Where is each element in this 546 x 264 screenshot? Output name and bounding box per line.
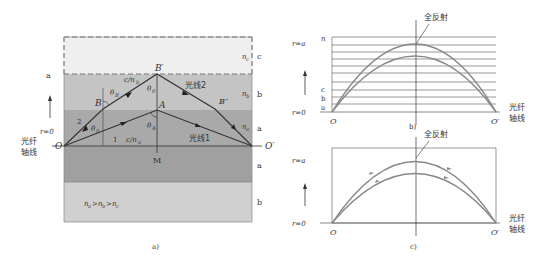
point-o-prime-c: O′ bbox=[491, 228, 500, 237]
svg-text:c/n: c/n bbox=[126, 136, 137, 144]
arrow-icon bbox=[447, 167, 452, 170]
axis-label-c-line2: 轴线 bbox=[509, 224, 525, 234]
panel-c-border bbox=[332, 148, 496, 223]
svg-text:b: b bbox=[246, 93, 249, 99]
r-zero-label-b: r=0 bbox=[292, 109, 306, 117]
layer-label-a: a bbox=[257, 124, 262, 133]
svg-text:a: a bbox=[88, 203, 91, 209]
leader-line-b bbox=[416, 24, 429, 44]
svg-text:c: c bbox=[116, 203, 119, 209]
r-a-label-c: r=a bbox=[292, 157, 305, 165]
svg-text:a: a bbox=[138, 139, 141, 145]
svg-text:c: c bbox=[246, 56, 249, 62]
svg-text:A: A bbox=[151, 125, 156, 131]
axis-label-b-line1: 光纤 bbox=[509, 102, 525, 112]
svg-text:a: a bbox=[246, 126, 249, 132]
axis-label-b-line2: 轴线 bbox=[509, 113, 525, 123]
point-o: O bbox=[55, 141, 63, 151]
point-o-c: O bbox=[330, 228, 337, 237]
point-o-prime: O′ bbox=[265, 141, 274, 151]
a-label: a bbox=[321, 104, 325, 112]
leader-line-c bbox=[416, 141, 429, 158]
ray-number-2: 2 bbox=[77, 118, 81, 126]
arrow-icon bbox=[444, 176, 449, 179]
axis-label-line2: 轴线 bbox=[21, 147, 37, 157]
svg-text:b: b bbox=[102, 203, 105, 209]
svg-text:B′: B′ bbox=[114, 92, 121, 98]
ray-curve-inner bbox=[332, 56, 496, 112]
figure-b: 全反射 n r=a c b a r=0 O O′ 光纤 轴线 b) bbox=[292, 12, 525, 131]
layer-label-c: c bbox=[257, 52, 262, 61]
up-arrow-icon bbox=[303, 183, 307, 189]
point-m: M bbox=[153, 156, 161, 165]
caption-b: b) bbox=[409, 123, 416, 131]
n-label: n bbox=[321, 35, 326, 43]
r-a-label-b: r=a bbox=[292, 40, 305, 48]
caption-a: a) bbox=[152, 243, 159, 251]
point-b-dprime: B″ bbox=[218, 97, 228, 106]
total-reflection-label-c: 全反射 bbox=[424, 129, 448, 139]
up-arrow-icon bbox=[48, 95, 52, 101]
layer-lines bbox=[332, 37, 496, 104]
ray-curve-outer-c bbox=[332, 162, 496, 224]
point-b: B bbox=[94, 98, 102, 108]
figure-a: B′ A B B″ M O O′ c/n b c/n a θ B′ θ 0 θ … bbox=[21, 37, 274, 251]
ray-1-label: 光线1 bbox=[189, 133, 210, 143]
arrow-icon bbox=[369, 172, 374, 175]
axis-label-c-line1: 光纤 bbox=[509, 213, 525, 223]
point-o-prime-b: O′ bbox=[491, 117, 500, 126]
svg-text:c/n: c/n bbox=[124, 76, 135, 84]
total-reflection-label-b: 全反射 bbox=[424, 12, 448, 22]
ray-curve-outer bbox=[332, 44, 496, 112]
point-o-b: O bbox=[330, 117, 337, 126]
up-arrow-icon bbox=[303, 70, 307, 76]
axis-label-line1: 光纤 bbox=[21, 136, 37, 146]
layer-label-a-lower: a bbox=[257, 161, 262, 170]
ray-number-1: 1 bbox=[113, 136, 117, 144]
svg-text:b: b bbox=[136, 79, 139, 85]
layer-label-b-lower: b bbox=[257, 198, 262, 207]
layer-label-b: b bbox=[257, 90, 262, 99]
r-zero-label: r=0 bbox=[40, 128, 54, 136]
figure-c: 全反射 r=a r=0 O O′ 光纤 轴线 c) bbox=[292, 129, 525, 251]
r-zero-label-c: r=0 bbox=[292, 220, 306, 228]
c-label: c bbox=[321, 86, 325, 94]
optical-fiber-diagram: B′ A B B″ M O O′ c/n b c/n a θ B′ θ 0 θ … bbox=[0, 0, 546, 264]
point-a: A bbox=[158, 100, 166, 110]
b-label: b bbox=[321, 95, 326, 103]
left-label-a: a bbox=[46, 71, 51, 80]
point-b-prime: B′ bbox=[154, 63, 164, 73]
ray-curve-inner-c bbox=[332, 174, 496, 224]
caption-c: c) bbox=[410, 243, 417, 251]
ray-2-label: 光线2 bbox=[185, 80, 206, 90]
